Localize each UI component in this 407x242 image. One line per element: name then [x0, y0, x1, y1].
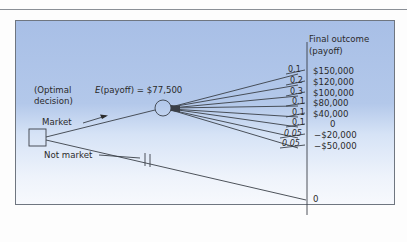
- not-market-pointer: [99, 155, 140, 158]
- outcome-branch-1: [171, 85, 298, 107]
- payoff-2: $100,000: [313, 88, 354, 98]
- optimal-arrowhead-icon: [100, 115, 108, 120]
- market-label: Market: [42, 117, 72, 127]
- payoff-3: $80,000: [313, 98, 349, 108]
- not-market-branch-line: [46, 140, 306, 200]
- outcome-header-subtitle: (payoff): [309, 46, 343, 56]
- optimal-decision-label-1: (Optimal: [34, 85, 71, 95]
- payoff-4: $40,000: [313, 109, 349, 119]
- not-market-label: Not market: [44, 150, 93, 160]
- decision-tree: Final outcome (payoff) (Optimal decision…: [0, 0, 407, 242]
- prob-6: 0.05: [284, 129, 302, 138]
- decision-node-square: [29, 129, 46, 146]
- prob-5: 0.1: [292, 118, 305, 127]
- prob-3: 0.1: [292, 97, 305, 106]
- not-market-payoff: 0: [313, 194, 318, 204]
- prob-2: 0.3: [290, 87, 303, 96]
- prob-4: 0.1: [292, 108, 305, 117]
- outcome-header-title: Final outcome: [309, 34, 369, 44]
- payoff-6: −$20,000: [314, 130, 357, 140]
- payoff-7: −$50,000: [314, 141, 357, 151]
- payoff-0: $150,000: [313, 66, 354, 76]
- prob-7: 0.05: [282, 139, 300, 148]
- expected-payoff-label: E(payoff) = $77,500: [95, 85, 182, 95]
- payoff-5: 0: [330, 119, 335, 129]
- optimal-decision-label-2: decision): [34, 96, 73, 106]
- fan-origin: [171, 105, 180, 112]
- prob-0: 0.1: [288, 65, 301, 74]
- chance-node-circle: [155, 100, 171, 116]
- prob-1: 0.2: [290, 76, 303, 85]
- payoff-1: $120,000: [313, 77, 354, 87]
